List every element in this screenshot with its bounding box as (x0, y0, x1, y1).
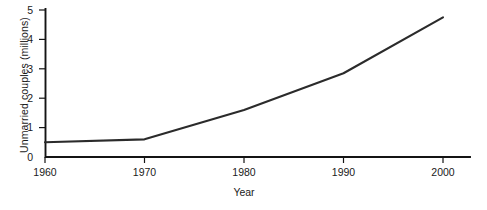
y-tick-label-3: 3 (27, 63, 33, 75)
x-tick-label-1960: 1960 (33, 166, 57, 178)
y-tick-label-0: 0 (27, 151, 33, 163)
plot-area: 5 4 3 2 1 0 1960 1970 1980 1990 2000 (0, 0, 487, 210)
x-tick-label-1970: 1970 (133, 166, 157, 178)
x-tick-label-1990: 1990 (332, 166, 356, 178)
line-chart-figure: Unmarried couples (millions) 5 4 3 2 1 0… (0, 0, 487, 210)
y-tick-label-4: 4 (27, 33, 33, 45)
y-tick-label-1: 1 (27, 121, 33, 133)
y-tick-label-5: 5 (27, 4, 33, 16)
x-axis-title: Year (45, 186, 443, 199)
x-tick-label-2000: 2000 (431, 166, 455, 178)
axis-spine (46, 9, 471, 157)
data-series-unmarried-couples (45, 17, 443, 142)
y-tick-marks (39, 10, 45, 128)
y-tick-label-2: 2 (27, 92, 33, 104)
x-tick-label-1980: 1980 (232, 166, 256, 178)
